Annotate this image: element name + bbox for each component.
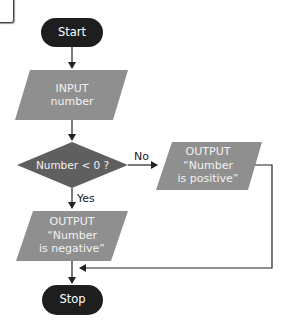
output-negative-line1: OUTPUT xyxy=(22,215,122,229)
output-negative-line3: is negative” xyxy=(22,242,122,256)
output-positive-line1: OUTPUT xyxy=(158,145,258,159)
input-label-line1: INPUT xyxy=(20,82,124,95)
output-positive-line3: is positive” xyxy=(158,172,258,186)
output-positive-line2: “Number xyxy=(158,159,258,173)
start-label: Start xyxy=(41,26,103,39)
output-positive-label: OUTPUT “Number is positive” xyxy=(158,145,258,186)
no-label: No xyxy=(134,150,149,163)
yes-label: Yes xyxy=(77,192,95,205)
stop-label: Stop xyxy=(42,293,103,306)
decision-label: Number < 0 ? xyxy=(17,159,128,172)
input-label-line2: number xyxy=(20,95,124,108)
output-negative-line2: “Number xyxy=(22,229,122,243)
output-negative-label: OUTPUT “Number is negative” xyxy=(22,215,122,256)
input-label: INPUT number xyxy=(20,82,124,108)
